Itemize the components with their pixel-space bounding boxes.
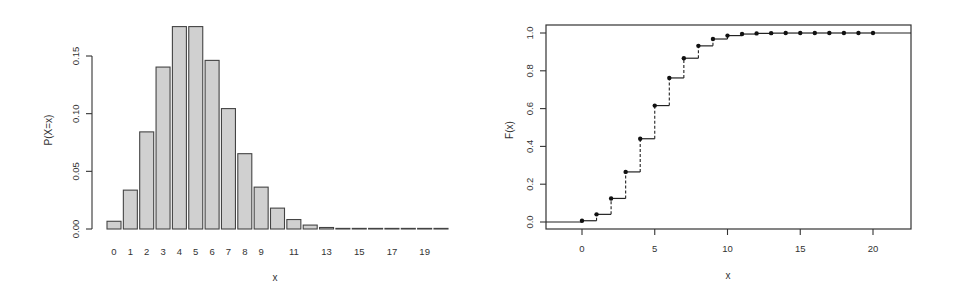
- cdf-point: [580, 219, 584, 223]
- pmf-bar: [123, 190, 137, 229]
- pmf-bar: [156, 67, 170, 229]
- pmf-bar: [140, 132, 154, 229]
- cdf-plot-frame: [546, 25, 911, 229]
- pmf-x-tick-label: 17: [387, 246, 398, 257]
- cdf-point: [696, 44, 700, 48]
- pmf-bar: [352, 228, 366, 229]
- pmf-x-tick-label: 13: [321, 246, 332, 257]
- cdf-y-tick-label: 0.4: [524, 140, 535, 153]
- pmf-bars: [107, 27, 448, 229]
- pmf-x-tick-labels: 01234567891113151719: [111, 246, 430, 257]
- pmf-bar: [205, 60, 219, 229]
- cdf-x-tick-label: 15: [795, 243, 806, 254]
- cdf-point: [594, 212, 598, 216]
- pmf-x-tick-label: 9: [259, 246, 264, 257]
- pmf-bar-chart: 0.000.050.100.15 01234567891113151719 x …: [43, 27, 448, 283]
- pmf-bar: [271, 208, 285, 229]
- figure: 0.000.050.100.15 01234567891113151719 x …: [0, 0, 960, 299]
- pmf-bar: [221, 109, 235, 229]
- pmf-bar: [172, 27, 186, 229]
- cdf-point: [827, 31, 831, 35]
- pmf-bar: [336, 228, 350, 229]
- cdf-point: [682, 56, 686, 60]
- pmf-bar: [303, 225, 317, 229]
- cdf-point: [711, 37, 715, 41]
- cdf-point: [784, 31, 788, 35]
- cdf-point: [871, 31, 875, 35]
- pmf-bar: [107, 221, 121, 229]
- cdf-point: [653, 103, 657, 107]
- pmf-x-tick-label: 4: [177, 246, 182, 257]
- pmf-x-tick-label: 1: [128, 246, 133, 257]
- cdf-point: [740, 32, 744, 36]
- pmf-x-tick-label: 5: [193, 246, 198, 257]
- cdf-y-tick-label: 1.0: [524, 26, 535, 39]
- pmf-bar: [320, 228, 334, 229]
- pmf-bar: [369, 228, 383, 229]
- cdf-y-tick-label: 0.6: [524, 102, 535, 115]
- cdf-x-tick-label: 10: [722, 243, 733, 254]
- cdf-step-chart: 0.00.20.40.60.81.0 05101520 x F(x): [504, 25, 911, 281]
- cdf-x-tick-label: 5: [652, 243, 657, 254]
- pmf-bar: [385, 228, 399, 229]
- cdf-y-tick-label: 0.0: [524, 215, 535, 228]
- cdf-point: [638, 137, 642, 141]
- pmf-bar: [238, 154, 252, 229]
- pmf-x-tick-label: 3: [160, 246, 165, 257]
- pmf-x-tick-label: 11: [289, 246, 299, 257]
- cdf-point: [623, 170, 627, 174]
- pmf-bar: [434, 228, 448, 229]
- cdf-point: [842, 31, 846, 35]
- pmf-y-axis-label: P(X=x): [43, 115, 54, 146]
- pmf-x-tick-label: 19: [419, 246, 430, 257]
- pmf-y-tick-label: 0.05: [70, 162, 81, 181]
- pmf-x-axis-label: x: [273, 272, 278, 283]
- pmf-x-tick-label: 6: [209, 246, 214, 257]
- cdf-x-tick-label: 0: [579, 243, 584, 254]
- cdf-point: [609, 196, 613, 200]
- pmf-bar: [401, 228, 415, 229]
- cdf-point: [725, 33, 729, 37]
- cdf-point: [754, 31, 758, 35]
- pmf-y-tick-label: 0.10: [70, 104, 81, 123]
- cdf-point: [798, 31, 802, 35]
- cdf-point: [813, 31, 817, 35]
- cdf-point: [769, 31, 773, 35]
- cdf-x-axis: 05101520: [579, 229, 878, 254]
- pmf-x-tick-label: 0: [111, 246, 116, 257]
- pmf-y-tick-label: 0.00: [70, 220, 81, 239]
- cdf-y-axis-label: F(x): [504, 121, 515, 139]
- pmf-bar: [287, 220, 301, 229]
- cdf-point: [856, 31, 860, 35]
- pmf-y-tick-label: 0.15: [70, 47, 81, 66]
- pmf-x-tick-label: 15: [354, 246, 365, 257]
- cdf-y-tick-label: 0.2: [524, 178, 535, 191]
- pmf-bar: [189, 27, 203, 229]
- pmf-bar: [254, 187, 268, 229]
- pmf-y-axis: 0.000.050.100.15: [70, 47, 92, 239]
- cdf-x-tick-label: 20: [868, 243, 879, 254]
- pmf-x-tick-label: 7: [226, 246, 231, 257]
- cdf-point: [667, 76, 671, 80]
- pmf-bar: [418, 228, 432, 229]
- cdf-y-tick-label: 0.8: [524, 64, 535, 77]
- cdf-y-axis: 0.00.20.40.60.81.0: [524, 26, 546, 228]
- pmf-x-tick-label: 2: [144, 246, 149, 257]
- cdf-steps: [546, 31, 911, 223]
- pmf-x-tick-label: 8: [242, 246, 247, 257]
- cdf-x-axis-label: x: [726, 270, 731, 281]
